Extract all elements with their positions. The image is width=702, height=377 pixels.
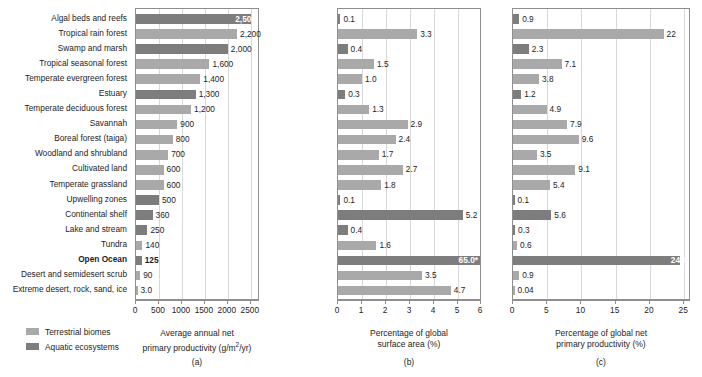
bar-value-label: 3.8 bbox=[542, 73, 554, 86]
bar-row: 800 bbox=[136, 132, 258, 147]
bar-value-label: 7.1 bbox=[565, 58, 577, 71]
axis-title-line-1: Percentage of global bbox=[319, 328, 499, 340]
axis-tick bbox=[337, 300, 338, 304]
bar-value-label: 9.6 bbox=[582, 133, 594, 146]
axis-tick bbox=[409, 300, 410, 304]
bar-row: 140 bbox=[136, 238, 258, 253]
axis-tick-label: 15 bbox=[610, 305, 619, 315]
category-label: Tundra bbox=[0, 237, 131, 252]
bar-row: 500 bbox=[136, 193, 258, 208]
axis-tick-label: 1000 bbox=[172, 305, 190, 315]
axis-tick-label: 1500 bbox=[195, 305, 213, 315]
bar bbox=[338, 59, 374, 69]
bar bbox=[513, 286, 515, 296]
legend-swatch-icon bbox=[26, 343, 39, 350]
bar-value-label: 600 bbox=[167, 179, 181, 192]
axis-tick bbox=[615, 300, 616, 304]
category-label: Continental shelf bbox=[0, 207, 131, 222]
bar bbox=[338, 150, 379, 160]
category-label: Extreme desert, rock, sand, ice bbox=[0, 282, 131, 297]
axis-tick bbox=[227, 300, 228, 304]
axis-tick-label: 3 bbox=[407, 305, 412, 315]
bar-value-label: 800 bbox=[176, 133, 190, 146]
panel-caption: (c) bbox=[501, 357, 701, 367]
axis-title-line-2-pre: primary productivity (g/m bbox=[143, 343, 236, 353]
bar-value-label: 2.4 bbox=[399, 133, 411, 146]
bar-value-label: 4.9 bbox=[550, 103, 562, 116]
bar bbox=[136, 225, 147, 235]
bar bbox=[136, 165, 164, 175]
bar-value-label: 360 bbox=[156, 209, 170, 222]
x-axis: 0123456 bbox=[337, 300, 481, 320]
axis-title: Average annual netprimary productivity (… bbox=[107, 328, 287, 355]
bar-value-label: 2,200 bbox=[240, 28, 261, 41]
category-label: Temperate grassland bbox=[0, 177, 131, 192]
category-label: Estuary bbox=[0, 86, 131, 101]
legend-item: Aquatic ecosystems bbox=[26, 340, 119, 353]
bar-value-label: 0.04 bbox=[518, 284, 534, 297]
category-label: Temperate evergreen forest bbox=[0, 71, 131, 86]
bar-row: 5.4 bbox=[513, 178, 689, 193]
bar-value-label: 1,600 bbox=[212, 58, 233, 71]
bar-value-label: 0.6 bbox=[520, 239, 532, 252]
bar-value-label: 0.1 bbox=[518, 194, 530, 207]
bar-value-label: 0.9 bbox=[522, 269, 534, 282]
bar bbox=[338, 44, 348, 54]
bar bbox=[513, 14, 519, 24]
category-label: Upwelling zones bbox=[0, 192, 131, 207]
plot-area: 2,5002,2002,0001,6001,4001,3001,20090080… bbox=[135, 8, 259, 300]
bar-value-label: 2,500 bbox=[235, 13, 256, 26]
bar-row: 1,200 bbox=[136, 102, 258, 117]
axis-tick-label: 0 bbox=[133, 305, 138, 315]
bar-value-label: 4.7 bbox=[454, 284, 466, 297]
bar-value-label: 1,300 bbox=[199, 88, 220, 101]
bar-value-label: 1.3 bbox=[372, 103, 384, 116]
axis-tick bbox=[512, 300, 513, 304]
bar-row: 0.1 bbox=[513, 193, 689, 208]
bar-row: 3.0 bbox=[136, 283, 258, 298]
bar-row: 1.0 bbox=[338, 72, 480, 87]
bar bbox=[136, 150, 168, 160]
bar-rows: 0.13.30.41.51.00.31.32.92.41.72.71.80.15… bbox=[338, 9, 480, 299]
bar bbox=[338, 29, 417, 39]
bar-row: 1.6 bbox=[338, 238, 480, 253]
bar-value-label: 2.9 bbox=[411, 118, 423, 131]
axis-tick-label: 2500 bbox=[241, 305, 259, 315]
bar bbox=[513, 90, 521, 100]
bar bbox=[513, 105, 547, 115]
bar-row: 24.4 bbox=[513, 253, 689, 268]
bar-value-label: 1,200 bbox=[194, 103, 215, 116]
axis-title-line-1: Percentage of global net bbox=[501, 328, 701, 340]
bar-value-label: 9.1 bbox=[578, 163, 590, 176]
category-label: Lake and stream bbox=[0, 222, 131, 237]
bar-value-label: 500 bbox=[162, 194, 176, 207]
bar-value-label: 0.3 bbox=[518, 224, 530, 237]
panel-caption: (a) bbox=[107, 357, 287, 367]
bar-row: 1.5 bbox=[338, 57, 480, 72]
bar-row: 0.04 bbox=[513, 283, 689, 298]
bar bbox=[338, 225, 348, 235]
bar-value-label: 0.4 bbox=[351, 224, 363, 237]
bar-value-label: 0.1 bbox=[343, 13, 355, 26]
axis-tick bbox=[580, 300, 581, 304]
bar-value-label: 90 bbox=[143, 269, 152, 282]
bar bbox=[136, 74, 200, 84]
bar-row: 1,600 bbox=[136, 57, 258, 72]
category-label: Tropical seasonal forest bbox=[0, 56, 131, 71]
bar bbox=[513, 271, 519, 281]
bar-value-label: 0.4 bbox=[351, 43, 363, 56]
bar bbox=[338, 180, 381, 190]
axis-tick-label: 0 bbox=[335, 305, 340, 315]
bar-row: 1,300 bbox=[136, 87, 258, 102]
bar-rows: 2,5002,2002,0001,6001,4001,3001,20090080… bbox=[136, 9, 258, 299]
bar bbox=[338, 241, 376, 251]
bar-row: 2,200 bbox=[136, 27, 258, 42]
bar-row: 0.6 bbox=[513, 238, 689, 253]
axis-tick bbox=[433, 300, 434, 304]
bar bbox=[338, 210, 463, 220]
axis-tick bbox=[385, 300, 386, 304]
bar bbox=[513, 74, 539, 84]
bar-row: 9.6 bbox=[513, 132, 689, 147]
bar bbox=[338, 14, 340, 24]
bar-value-label: 65.0* bbox=[459, 254, 478, 267]
